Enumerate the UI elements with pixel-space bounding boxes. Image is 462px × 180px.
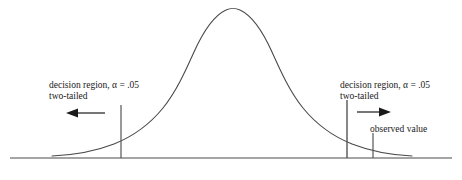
left-decision-region-annotation: decision region, α = .05 two-tailed bbox=[49, 80, 139, 102]
observed-value-label: observed value bbox=[370, 124, 427, 135]
right-decision-region-line2: two-tailed bbox=[340, 91, 430, 102]
left-decision-region-line2: two-tailed bbox=[49, 91, 139, 102]
right-decision-region-annotation: decision region, α = .05 two-tailed bbox=[340, 80, 430, 102]
statistics-figure: decision region, α = .05 two-tailed deci… bbox=[0, 0, 462, 180]
upper-rejection-arrow bbox=[357, 108, 391, 117]
lower-rejection-arrow bbox=[66, 109, 105, 118]
right-decision-region-line1: decision region, α = .05 bbox=[340, 80, 430, 91]
observed-value-annotation: observed value bbox=[370, 124, 427, 135]
left-decision-region-line1: decision region, α = .05 bbox=[49, 80, 139, 91]
